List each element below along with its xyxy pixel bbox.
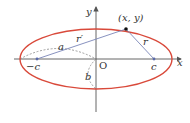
point-xy xyxy=(124,27,128,31)
x-axis-label: x xyxy=(177,57,183,68)
a-label: a xyxy=(58,41,64,52)
focus-right xyxy=(153,58,156,61)
focus-left xyxy=(36,58,39,61)
ellipse-svg: y x O (x, y) r′ r a b −c c xyxy=(0,0,190,123)
c-label: c xyxy=(151,61,157,72)
origin-label: O xyxy=(99,60,107,71)
ellipse-diagram: y x O (x, y) r′ r a b −c c xyxy=(0,0,190,123)
neg-c-label: −c xyxy=(26,61,40,72)
y-axis-label: y xyxy=(85,6,92,17)
b-label: b xyxy=(85,71,91,82)
segment-r xyxy=(126,29,154,59)
r-prime-label: r′ xyxy=(76,33,84,44)
point-label: (x, y) xyxy=(118,12,144,23)
